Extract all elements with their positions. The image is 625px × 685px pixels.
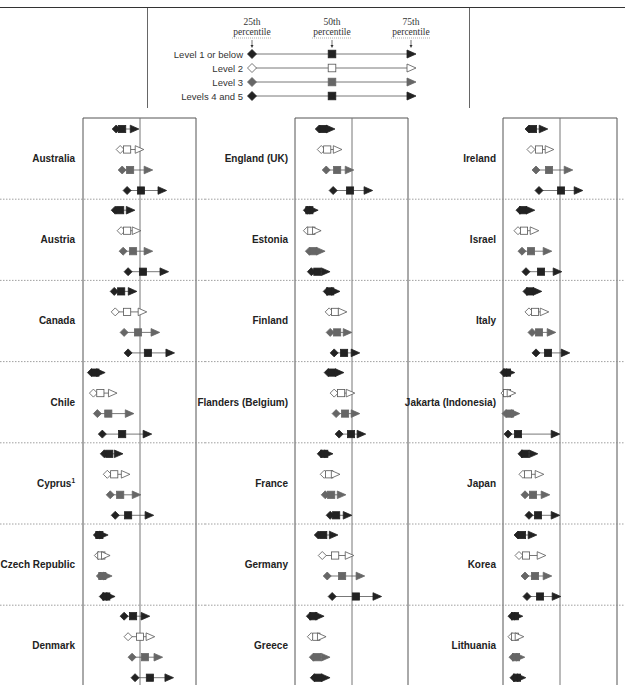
legend-square-marker [328, 92, 336, 100]
p75-triangle-marker [108, 389, 117, 397]
level-row [110, 287, 137, 295]
p50-square-marker [134, 329, 141, 336]
p50-square-marker [117, 207, 124, 214]
country-block: Denmark [0, 605, 205, 682]
p75-triangle-marker [151, 329, 160, 337]
level-row [501, 389, 516, 397]
p25-diamond-marker [120, 612, 128, 620]
country-label: Chile [51, 397, 76, 408]
legend-row: Levels 4 and 5 [181, 91, 416, 102]
p75-triangle-marker [165, 674, 174, 682]
level-row [519, 470, 544, 478]
level-row [124, 633, 155, 641]
legend-row: Level 1 or below [174, 49, 416, 60]
country-block: Estonia [205, 199, 415, 276]
legend-header-50th-line1: 50th [324, 17, 341, 27]
country-block: Flanders (Belgium) [197, 362, 415, 439]
level-row [330, 389, 355, 397]
level-row [532, 349, 570, 357]
p25-diamond-marker [523, 593, 531, 601]
level-row [525, 308, 549, 316]
country-label: Korea [468, 559, 497, 570]
legend-row-label: Level 2 [212, 63, 243, 74]
p50-square-marker [105, 410, 112, 417]
p50-square-marker [341, 410, 348, 417]
level-row [326, 328, 352, 336]
level-row [131, 674, 174, 682]
p75-triangle-marker [351, 349, 360, 357]
country-block: Korea [415, 524, 625, 601]
p75-triangle-marker [125, 410, 134, 418]
country-label: Denmark [32, 640, 75, 651]
level-row [322, 166, 354, 174]
legend-triangle-marker [407, 78, 416, 86]
p75-triangle-marker [97, 369, 106, 377]
level-row [124, 349, 174, 357]
p50-square-marker [346, 187, 353, 194]
level-row [324, 369, 344, 377]
p75-triangle-marker [507, 389, 516, 397]
p75-triangle-marker [533, 288, 542, 296]
legend-triangle-marker [407, 92, 416, 100]
p75-triangle-marker [343, 329, 352, 337]
p25-diamond-marker [521, 491, 529, 499]
p75-triangle-marker [126, 206, 135, 214]
p75-triangle-marker [551, 512, 560, 520]
level-row [117, 227, 141, 235]
level-row [321, 491, 346, 499]
p75-triangle-marker [553, 268, 562, 276]
legend-diamond-marker [248, 64, 257, 73]
p25-diamond-marker [111, 511, 119, 519]
p25-diamond-marker [532, 349, 540, 357]
p75-triangle-marker [313, 227, 322, 235]
p50-square-marker [352, 593, 359, 600]
p75-triangle-marker [154, 653, 163, 661]
p50-square-marker [129, 613, 136, 620]
country-block: Austria [0, 199, 205, 276]
legend-square-marker [328, 64, 336, 72]
level-row [103, 470, 130, 478]
country-label: Austria [41, 234, 76, 245]
p50-square-marker [125, 512, 132, 519]
country-label: Israel [470, 234, 496, 245]
p50-square-marker [519, 207, 526, 214]
p75-triangle-marker [373, 593, 382, 601]
p75-triangle-marker [321, 268, 330, 276]
p50-square-marker [529, 125, 536, 132]
p75-triangle-marker [515, 633, 524, 641]
level-row [532, 166, 573, 174]
p50-square-marker [320, 531, 327, 538]
p75-triangle-marker [574, 187, 583, 195]
level-row [111, 308, 147, 316]
p25-diamond-marker [116, 146, 124, 154]
p50-square-marker [332, 308, 339, 315]
p50-square-marker [347, 431, 354, 438]
legend-diamond-marker [248, 92, 257, 101]
p50-square-marker [332, 552, 339, 559]
p50-square-marker [334, 166, 341, 173]
p25-diamond-marker [118, 166, 126, 174]
country-footnote-marker: 1 [71, 477, 75, 484]
country-block: Chile [0, 362, 205, 439]
level-row [535, 187, 583, 195]
p25-diamond-marker [322, 166, 330, 174]
country-label: Greece [254, 640, 288, 651]
country-block: Israel [415, 199, 625, 276]
level-row [310, 674, 330, 682]
p50-square-marker [536, 593, 543, 600]
p75-triangle-marker [564, 166, 573, 174]
country-label: France [255, 478, 288, 489]
p75-triangle-marker [530, 227, 539, 235]
p75-triangle-marker [516, 653, 525, 661]
p50-square-marker [522, 552, 529, 559]
legend-triangle-marker [407, 64, 416, 72]
p75-triangle-marker [310, 206, 319, 214]
legend-header-75th: 75thpercentile [392, 17, 429, 37]
level-row [305, 247, 325, 255]
p25-diamond-marker [326, 328, 334, 336]
p75-triangle-marker [144, 166, 153, 174]
p75-triangle-marker [144, 247, 153, 255]
p50-square-marker [329, 369, 336, 376]
p50-square-marker [118, 288, 125, 295]
p75-triangle-marker [331, 471, 340, 479]
